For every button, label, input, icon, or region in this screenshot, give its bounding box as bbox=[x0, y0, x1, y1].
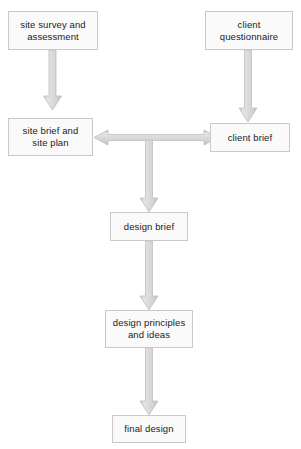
node-site-brief[interactable]: site brief and site plan bbox=[8, 118, 93, 156]
node-site-survey[interactable]: site survey and assessment bbox=[8, 11, 98, 50]
arrow-principles-to-final bbox=[140, 348, 158, 415]
node-site-brief-label: site brief and site plan bbox=[20, 125, 82, 149]
node-client-questionnaire[interactable]: client questionnaire bbox=[205, 11, 293, 50]
node-client-questionnaire-label: client questionnaire bbox=[217, 19, 281, 43]
arrow-survey-to-site-brief bbox=[44, 50, 62, 110]
node-design-principles-label: design principles and ideas bbox=[110, 317, 188, 341]
node-client-brief-label: client brief bbox=[225, 132, 276, 144]
node-design-brief-label: design brief bbox=[121, 221, 177, 233]
node-design-brief[interactable]: design brief bbox=[110, 212, 188, 241]
flowchart-diagram: site survey and assessment client questi… bbox=[0, 0, 301, 449]
node-site-survey-label: site survey and assessment bbox=[17, 19, 88, 43]
arrow-site-brief-client-brief bbox=[94, 130, 218, 145]
node-client-brief[interactable]: client brief bbox=[210, 123, 290, 152]
arrow-design-brief-to-principles bbox=[140, 241, 158, 310]
arrow-questionnaire-to-client-brief bbox=[239, 50, 257, 122]
arrow-junction-to-design-brief bbox=[140, 140, 158, 212]
node-final-design-label: final design bbox=[121, 423, 176, 435]
node-design-principles[interactable]: design principles and ideas bbox=[105, 310, 193, 348]
node-final-design[interactable]: final design bbox=[112, 415, 186, 443]
